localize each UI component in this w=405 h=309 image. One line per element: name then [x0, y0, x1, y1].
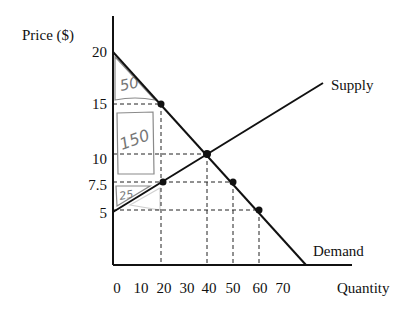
point-demand-5 [256, 207, 263, 214]
xtick-0: 0 [113, 280, 121, 296]
point-demand-15 [158, 101, 165, 108]
point-supply-7-5 [160, 179, 167, 186]
xtick-70: 70 [276, 280, 291, 296]
point-demand-7-5 [230, 179, 237, 186]
supply-curve [113, 83, 323, 212]
xtick-10: 10 [134, 280, 149, 296]
ytick-20: 20 [92, 44, 107, 60]
dashed-guides [113, 104, 259, 264]
demand-label: Demand [313, 243, 364, 259]
x-axis-label: Quantity [337, 280, 390, 296]
xtick-60: 60 [253, 280, 268, 296]
ytick-7-5: 7.5 [88, 177, 107, 193]
ytick-15: 15 [92, 96, 107, 112]
ytick-10: 10 [92, 151, 107, 167]
y-axis-label: Price ($) [22, 27, 74, 44]
xtick-30: 30 [180, 280, 195, 296]
rectangle-value: 150 [117, 125, 152, 153]
xtick-50: 50 [226, 280, 241, 296]
point-equilibrium [203, 150, 211, 158]
x-tick-labels: 0 10 20 30 40 50 60 70 [113, 280, 290, 296]
xtick-40: 40 [202, 280, 217, 296]
supply-label: Supply [331, 77, 374, 93]
consumer-surplus-value: 50 [118, 73, 140, 95]
demand-curve [113, 52, 306, 265]
xtick-20: 20 [157, 280, 172, 296]
supply-demand-chart: 50 150 25 Price ($) Quantity Supply Dema… [0, 0, 405, 309]
ytick-5: 5 [100, 205, 108, 221]
y-tick-labels: 20 15 10 7.5 5 [88, 44, 107, 221]
